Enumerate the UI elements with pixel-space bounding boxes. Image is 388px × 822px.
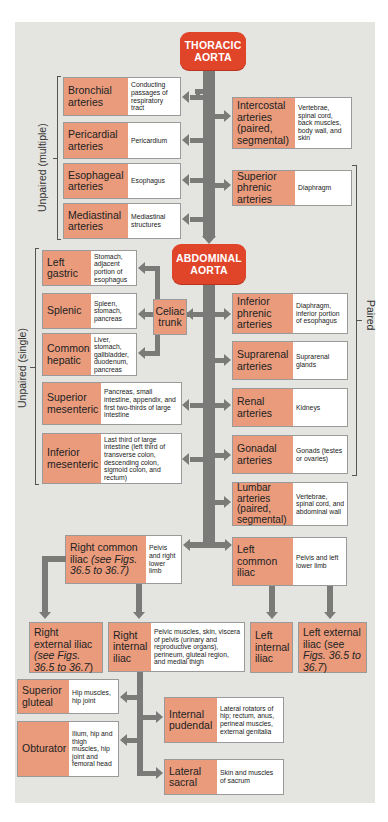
artery-supplies: Hip muscles, hip joint [69,680,118,713]
arrowhead-celiac-trunk [186,308,193,320]
artery-box-right-external-iliac: Right external iliac (see Figs. 36.5 to … [29,622,103,673]
arrowhead-bronchial [182,91,189,103]
arrowhead-lumbar [224,496,231,508]
artery-box-superior-gluteal: Superior gluteal Hip muscles, hip joint [17,679,119,714]
branch-line-right-internal [136,584,142,613]
branch-line-superior-phrenic [214,183,224,188]
artery-box-left-external-iliac: Left external iliac (see Figs. 36.5 to 3… [298,622,367,673]
branch-line-right-external-v [42,556,48,613]
artery-supplies: Skin and muscles of sacrum [217,760,283,794]
artery-box-splenic: Splenic Spleen, stomach, pancreas [42,293,137,329]
artery-box-left-common-iliac: Left common iliac Pelvis and left lower … [232,537,347,586]
branch-line-lateral-sacral [137,771,156,776]
arrowhead-pericardial [182,134,189,146]
branch-line-inferior-mesenteric [190,457,204,462]
artery-name: Renal arteries [233,389,293,426]
artery-supplies: Suprarenal glands [293,342,347,379]
artery-name: Superior phrenic arteries [233,171,295,205]
artery-supplies: Pelvis and right lower limb [146,536,181,583]
branch-line-bronchial-h [190,95,204,100]
artery-box-obturator: Obturator Ilium, hip and thigh muscles, … [17,721,119,777]
arrowhead-superior-phrenic [224,179,231,191]
artery-name: Internal pudendal [165,698,217,742]
right-common-iliac-name-cont: iliac [70,553,91,565]
bracket-unpaired-single [35,248,39,485]
arrowhead-splenic [138,308,145,320]
artery-supplies: Esophagus [128,164,180,198]
artery-name: Obturator [18,722,69,776]
artery-supplies: Mediastinal structures [128,204,180,238]
artery-box-renal: Renal arteries Kidneys [232,388,348,427]
branch-line-left-gastric [145,266,160,271]
arrowhead-inferior-phrenic [224,308,231,320]
ref-suffix: ) [89,661,93,673]
arrowhead-inferior-mesenteric [182,453,189,465]
artery-name: Esophageal arteries [64,164,128,198]
right-external-iliac-name: Right external iliac [34,626,92,650]
arrowhead-lateral-sacral [156,767,163,779]
artery-box-suprarenal: Suprarenal arteries Suprarenal glands [232,341,348,380]
branch-line-lumbar [214,500,224,505]
artery-supplies: Stomach, adjacent portion of esophagus [91,251,136,285]
branch-line-gonadal [214,453,224,458]
artery-name: Pericardial arteries [64,123,128,158]
artery-supplies: Conducting passages of respiratory tract [128,78,180,115]
arrowhead-common-hepatic [138,347,145,359]
artery-supplies: Lateral rotators of hip; rectum, anus, p… [217,698,283,742]
branch-line-mediastinal [190,217,204,222]
branch-line-internal-pudendal [141,715,156,720]
ref-figures: Figs. 36.5 to 36.7 [303,649,361,673]
artery-supplies: Last third of large intestine (left thir… [101,434,181,483]
artery-name: Bronchial arteries [64,78,128,115]
artery-box-mediastinal: Mediastinal arteries Mediastinal structu… [63,203,181,239]
thoracic-aorta-trunk [203,68,215,238]
artery-box-superior-mesenteric: Superior mesenteric Pancreas, small inte… [42,382,182,425]
artery-name: Intercostal arteries (paired, segmental) [233,98,295,148]
arrowhead-right-external-iliac [39,612,51,619]
artery-supplies: Spleen, stomach, pancreas [91,294,136,328]
artery-name: Inferior phrenic arteries [233,294,293,333]
artery-supplies: Kidneys [293,389,347,426]
label-unpaired-multiple: Unpaired (multiple) [36,123,48,212]
trunk-arrowhead-to-abdominal [202,236,216,244]
artery-name: Right internal iliac [109,623,151,671]
artery-supplies: Vertebrae, spinal cord, and abdominal wa… [293,483,347,525]
artery-name: Right common iliac (see Figs. 36.5 to 36… [66,536,146,583]
artery-supplies: Ilium, hip and thigh muscles, hip joint … [69,722,118,776]
arrowhead-left-gastric [138,262,145,274]
celiac-trunk: Celiac trunk [153,299,187,335]
artery-name: Superior gluteal [18,680,69,713]
artery-supplies: Vertebrae, spinal cord, back muscles, bo… [295,98,351,148]
arrowhead-superior-mesenteric [182,399,189,411]
arrowhead-obturator [120,734,127,746]
arrowhead-intercostal [224,110,231,122]
artery-box-pericardial: Pericardial arteries Pericardium [63,122,181,159]
branch-line-common-hepatic [145,351,160,356]
branch-line-superior-mesenteric [190,403,204,408]
abdominal-aorta-label-2: AORTA [176,264,242,276]
bifurcation-stem [203,520,215,544]
artery-name: Lateral sacral [165,760,217,794]
artery-name: Left common iliac [233,538,293,585]
artery-box-inferior-phrenic: Inferior phrenic arteries Diaphragm, inf… [232,293,348,334]
artery-box-internal-pudendal: Internal pudendal Lateral rotators of hi… [164,697,284,743]
artery-box-right-common-iliac: Right common iliac (see Figs. 36.5 to 36… [65,535,182,584]
branch-line-pericardial [190,138,204,143]
internal-iliac-trunk [137,672,143,776]
abdominal-aorta-label-1: ABDOMINAL [176,252,242,264]
artery-box-inferior-mesenteric: Inferior mesenteric Last third of large … [42,433,182,484]
artery-box-lumbar: Lumbar arteries (paired, segmental) Vert… [232,482,348,526]
right-common-iliac-name: Right common [70,541,138,553]
branch-line-obturator [127,738,139,743]
arrowhead-left-external-iliac [324,612,336,619]
arrowhead-internal-pudendal [156,711,163,723]
branch-line-suprarenal [214,358,224,363]
artery-name: Common hepatic [43,334,91,375]
arrowhead-renal [224,399,231,411]
artery-box-left-internal-iliac: Left internal iliac [250,622,293,673]
branch-line-renal [214,403,224,408]
artery-box-right-internal-iliac: Right internal iliac Pelvic muscles, ski… [108,622,245,672]
thoracic-aorta-label-2: AORTA [184,51,241,63]
arrowhead-superior-gluteal [120,691,127,703]
artery-box-left-gastric: Left gastric Stomach, adjacent portion o… [42,250,137,286]
